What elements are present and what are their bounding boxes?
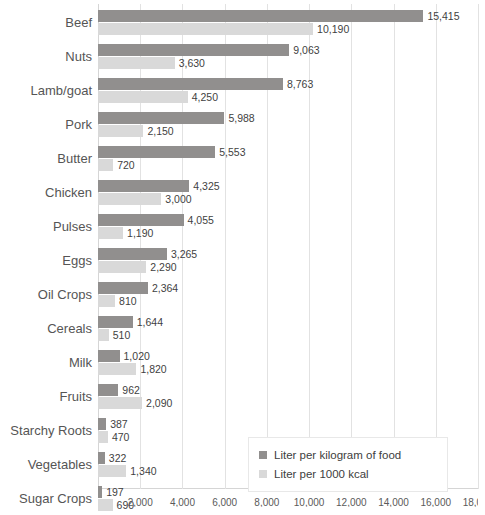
bar-value-label: 3,630 (179, 57, 205, 69)
category-label: Sugar Crops (19, 482, 92, 515)
bar-value-label: 1,644 (137, 316, 163, 328)
bar-liter-per-kg: 2,364 (98, 282, 148, 294)
bar-liter-per-kg: 5,553 (98, 146, 215, 158)
category-row: Milk1,0201,820 (98, 346, 478, 380)
bar-value-label: 962 (122, 384, 140, 396)
bar-value-label: 10,190 (317, 23, 349, 35)
x-tick-label: 18,000 (463, 497, 478, 507)
bar-value-label: 2,090 (146, 397, 172, 409)
bar-liter-per-1000kcal: 1,820 (98, 363, 136, 375)
bar-liter-per-kg: 8,763 (98, 78, 283, 90)
bar-value-label: 3,265 (171, 248, 197, 260)
bar-value-label: 2,150 (147, 125, 173, 137)
bar-value-label: 3,000 (165, 193, 191, 205)
bar-liter-per-kg: 322 (98, 452, 105, 464)
bar-liter-per-kg: 4,055 (98, 214, 184, 226)
bar-liter-per-kg: 3,265 (98, 248, 167, 260)
x-tick-label: 14,000 (378, 497, 409, 507)
bar-liter-per-kg: 5,988 (98, 112, 224, 124)
x-tick-label: 2,000 (128, 497, 153, 507)
gridline (478, 4, 479, 489)
legend-swatch-icon (259, 470, 267, 478)
category-row: Oil Crops2,364810 (98, 278, 478, 312)
bar-liter-per-1000kcal: 10,190 (98, 23, 313, 35)
category-label: Beef (65, 6, 92, 40)
category-label: Cereals (47, 312, 92, 346)
category-row: Butter5,553720 (98, 142, 478, 176)
chart-legend: Liter per kilogram of foodLiter per 1000… (248, 437, 448, 492)
bar-liter-per-kg: 962 (98, 384, 118, 396)
category-label: Milk (69, 346, 92, 380)
category-row: Lamb/goat8,7634,250 (98, 74, 478, 108)
legend-swatch-icon (259, 451, 267, 459)
bar-liter-per-1000kcal: 3,000 (98, 193, 161, 205)
bar-liter-per-kg: 9,063 (98, 44, 289, 56)
bar-value-label: 810 (119, 295, 137, 307)
bar-value-label: 5,988 (228, 112, 254, 124)
category-label: Pulses (53, 210, 92, 244)
bar-value-label: 1,020 (124, 350, 150, 362)
bar-value-label: 322 (109, 452, 127, 464)
category-label: Butter (57, 142, 92, 176)
x-axis-tick-labels: 2,0004,0006,0008,00010,00012,00014,00016… (98, 497, 478, 507)
category-row: Nuts9,0633,630 (98, 40, 478, 74)
bar-liter-per-1000kcal: 720 (98, 159, 113, 171)
bar-value-label: 1,190 (127, 227, 153, 239)
plot-area: Beef15,41510,190Nuts9,0633,630Lamb/goat8… (98, 4, 478, 489)
bar-liter-per-kg: 1,644 (98, 316, 133, 328)
bar-liter-per-1000kcal: 2,090 (98, 397, 142, 409)
x-tick-label: 4,000 (170, 497, 195, 507)
category-label: Nuts (65, 40, 92, 74)
category-label: Eggs (62, 244, 92, 278)
legend-item: Liter per 1000 kcal (259, 464, 437, 483)
category-label: Fruits (60, 380, 93, 414)
category-label: Chicken (45, 176, 92, 210)
bar-liter-per-1000kcal: 2,150 (98, 125, 143, 137)
legend-item: Liter per kilogram of food (259, 445, 437, 464)
x-tick-label: 16,000 (420, 497, 451, 507)
bar-liter-per-1000kcal: 510 (98, 329, 109, 341)
category-label: Lamb/goat (31, 74, 92, 108)
bar-liter-per-kg: 4,325 (98, 180, 189, 192)
bar-liter-per-1000kcal: 470 (98, 431, 108, 443)
bar-value-label: 4,325 (193, 180, 219, 192)
category-row: Eggs3,2652,290 (98, 244, 478, 278)
category-label: Starchy Roots (10, 414, 92, 448)
category-label: Vegetables (28, 448, 92, 482)
bar-liter-per-1000kcal: 810 (98, 295, 115, 307)
category-row: Pork5,9882,150 (98, 108, 478, 142)
category-label: Oil Crops (38, 278, 92, 312)
category-row: Chicken4,3253,000 (98, 176, 478, 210)
legend-label: Liter per kilogram of food (274, 449, 401, 461)
legend-label: Liter per 1000 kcal (274, 468, 369, 480)
bar-value-label: 387 (110, 418, 128, 430)
bar-value-label: 1,820 (140, 363, 166, 375)
bar-value-label: 5,553 (219, 146, 245, 158)
bar-value-label: 4,055 (188, 214, 214, 226)
bar-value-label: 1,340 (130, 465, 156, 477)
bar-liter-per-1000kcal: 1,340 (98, 465, 126, 477)
category-row: Beef15,41510,190 (98, 6, 478, 40)
bar-value-label: 2,364 (152, 282, 178, 294)
bar-liter-per-kg: 387 (98, 418, 106, 430)
x-tick-label: 6,000 (212, 497, 237, 507)
bar-liter-per-1000kcal: 4,250 (98, 91, 188, 103)
x-tick-label: 12,000 (336, 497, 367, 507)
bar-liter-per-1000kcal: 2,290 (98, 261, 146, 273)
bar-value-label: 470 (112, 431, 130, 443)
category-row: Cereals1,644510 (98, 312, 478, 346)
bar-liter-per-kg: 1,020 (98, 350, 120, 362)
bar-liter-per-1000kcal: 1,190 (98, 227, 123, 239)
bar-value-label: 510 (113, 329, 131, 341)
bar-value-label: 9,063 (293, 44, 319, 56)
bar-value-label: 4,250 (192, 91, 218, 103)
bar-value-label: 15,415 (427, 10, 459, 22)
bar-liter-per-1000kcal: 3,630 (98, 57, 175, 69)
bar-value-label: 8,763 (287, 78, 313, 90)
category-row: Fruits9622,090 (98, 380, 478, 414)
x-tick-label: 10,000 (294, 497, 325, 507)
bar-liter-per-kg: 15,415 (98, 10, 423, 22)
bar-value-label: 720 (117, 159, 135, 171)
x-tick-label: 8,000 (254, 497, 279, 507)
